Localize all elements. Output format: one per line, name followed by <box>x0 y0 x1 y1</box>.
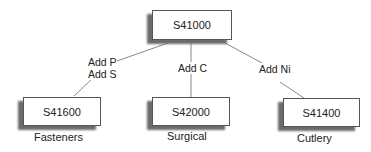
category-label-cutlery: Cutlery <box>297 132 332 144</box>
edge-label-cutlery: Add Ni <box>259 63 291 75</box>
root-node: S41000 <box>152 10 232 40</box>
edge-label-fasteners: Add P Add S <box>88 56 117 80</box>
root-node-label: S41000 <box>173 19 211 31</box>
edge-label-surgical: Add C <box>178 62 207 74</box>
child-node-surgical: S42000 <box>152 97 230 126</box>
child-node-fasteners: S41600 <box>23 97 101 126</box>
category-label-fasteners: Fasteners <box>34 131 83 143</box>
category-label-surgical: Surgical <box>167 130 207 142</box>
child-node-cutlery: S41400 <box>283 98 360 127</box>
